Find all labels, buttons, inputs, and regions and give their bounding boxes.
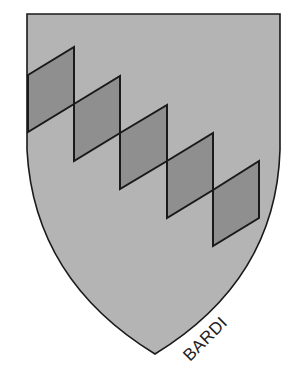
coat-of-arms: BARDI [0, 0, 293, 387]
